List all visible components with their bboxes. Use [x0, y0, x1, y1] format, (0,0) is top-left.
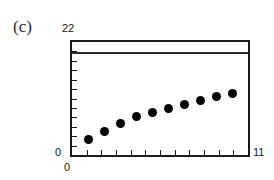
data-point — [100, 127, 109, 136]
x-axis-tick — [175, 150, 176, 155]
data-point — [132, 112, 141, 121]
x-axis-tick — [219, 150, 220, 155]
y-axis-tick — [72, 127, 77, 128]
data-point — [228, 89, 237, 98]
y-axis-tick — [72, 108, 77, 109]
plot-frame — [70, 40, 250, 157]
x-axis-tick — [160, 150, 161, 155]
plot-area — [72, 42, 248, 155]
data-point — [180, 100, 189, 109]
y-axis-tick — [72, 136, 77, 137]
data-point — [196, 96, 205, 105]
x-axis-tick — [189, 150, 190, 155]
y-axis-tick — [72, 89, 77, 90]
x-axis-tick — [131, 150, 132, 155]
y-axis-tick — [72, 61, 77, 62]
x-axis-tick — [116, 150, 117, 155]
reference-line — [72, 52, 248, 54]
y-axis-max-label: 22 — [62, 22, 74, 34]
data-point — [116, 119, 125, 128]
data-point — [164, 104, 173, 113]
x-axis-tick — [233, 150, 234, 155]
x-axis-tick — [204, 150, 205, 155]
y-axis-tick — [72, 99, 77, 100]
data-point — [212, 92, 221, 101]
data-point — [148, 108, 157, 117]
x-axis-max-label: 11 — [253, 146, 264, 158]
y-axis-tick — [72, 80, 77, 81]
panel-label: (c) — [13, 17, 32, 37]
y-axis-tick — [72, 117, 77, 118]
data-point — [84, 135, 93, 144]
x-axis-tick — [101, 150, 102, 155]
x-axis-min-label: 0 — [64, 161, 70, 173]
y-axis-min-label: 0 — [55, 146, 61, 158]
y-axis-tick — [72, 70, 77, 71]
x-axis-tick — [87, 150, 88, 155]
y-axis-tick — [72, 146, 77, 147]
figure-root: (c) 22 0 0 11 — [0, 0, 274, 180]
x-axis-tick — [145, 150, 146, 155]
